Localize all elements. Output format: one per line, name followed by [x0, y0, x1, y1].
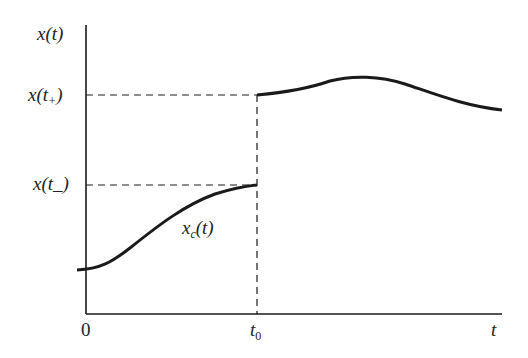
- origin-label: 0: [81, 320, 91, 339]
- diagram-svg: [0, 0, 528, 358]
- t0-sub: 0: [255, 329, 261, 343]
- t0-label: t0: [250, 320, 261, 342]
- x-plus-sub: +: [48, 94, 56, 108]
- diagram-canvas: x(t) x(t+) x(t_) xc(t) 0 t0 t: [0, 0, 528, 358]
- curve-before-jump: [77, 185, 257, 270]
- x-minus-label: x(t_): [33, 174, 69, 193]
- curve-label-arg: (t): [196, 217, 214, 238]
- x-plus-label: x(t+): [28, 85, 62, 107]
- x-plus-label-text: x(t: [28, 84, 48, 105]
- x-plus-label-close: ): [56, 84, 62, 105]
- curve-after-jump: [257, 77, 502, 110]
- curve-label: xc(t): [182, 218, 214, 240]
- y-axis-label: x(t): [37, 24, 63, 43]
- x-axis-label: t: [491, 320, 496, 339]
